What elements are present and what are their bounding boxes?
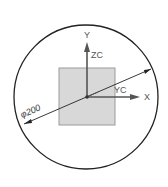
- axis-label-y: Y: [84, 30, 90, 40]
- axis-label-x: X: [144, 92, 150, 102]
- arrowhead-right-icon: [144, 69, 151, 74]
- axis-label-zc: ZC: [91, 50, 103, 60]
- axis-arrow-up-icon: [84, 42, 90, 52]
- origin-point: [85, 95, 89, 99]
- axis-label-yc: YC: [114, 85, 127, 95]
- arrowhead-left-icon: [24, 119, 32, 124]
- cad-diagram: Y ZC YC X φ200: [0, 0, 168, 187]
- axis-arrow-right-icon: [130, 94, 140, 100]
